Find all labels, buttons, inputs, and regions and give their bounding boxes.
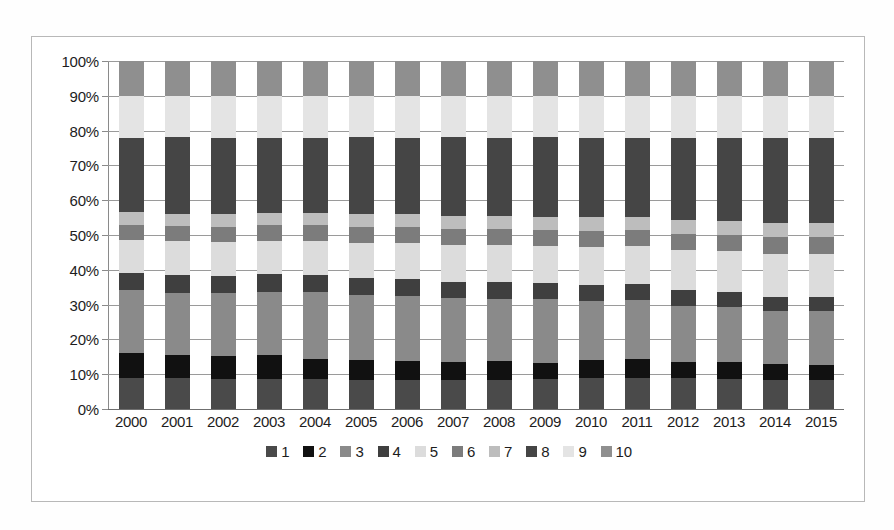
bar-2001[interactable]: [165, 61, 190, 409]
screenshot-root: 0%10%20%30%40%50%60%70%80%90%100% 200020…: [0, 0, 894, 530]
chart-frame: 0%10%20%30%40%50%60%70%80%90%100% 200020…: [31, 36, 865, 502]
bar-2012[interactable]: [671, 61, 696, 409]
bar-segment-series-6: [579, 231, 604, 247]
bar-2002[interactable]: [211, 61, 236, 409]
bar-2009[interactable]: [533, 61, 558, 409]
bar-segment-series-7: [165, 214, 190, 226]
bar-segment-series-9: [763, 96, 788, 138]
bar-segment-series-4: [487, 282, 512, 299]
legend-swatch-icon-10: [601, 446, 612, 457]
bar-segment-series-10: [717, 61, 742, 96]
bar-segment-series-6: [441, 229, 466, 245]
gridlines-and-bars: 0%10%20%30%40%50%60%70%80%90%100%: [108, 61, 844, 409]
legend-item-1[interactable]: 1: [266, 443, 289, 460]
legend-item-9[interactable]: 9: [563, 443, 586, 460]
legend-item-2[interactable]: 2: [303, 443, 326, 460]
legend-item-6[interactable]: 6: [452, 443, 475, 460]
bar-2011[interactable]: [625, 61, 650, 409]
legend-item-8[interactable]: 8: [526, 443, 549, 460]
bar-segment-series-10: [165, 61, 190, 95]
bar-segment-series-2: [395, 361, 420, 380]
bar-segment-series-7: [671, 220, 696, 234]
bar-2008[interactable]: [487, 61, 512, 409]
y-tick-mark: [102, 131, 108, 132]
bar-2004[interactable]: [303, 61, 328, 409]
y-axis-label: 10%: [70, 366, 99, 383]
bar-segment-series-5: [671, 250, 696, 290]
bar-segment-series-9: [671, 96, 696, 138]
bar-segment-series-7: [441, 216, 466, 229]
bar-segment-series-3: [119, 290, 144, 353]
legend-label-7: 7: [504, 443, 512, 460]
bar-segment-series-7: [303, 213, 328, 226]
bar-segment-series-8: [441, 137, 466, 215]
bar-segment-series-10: [349, 61, 374, 96]
legend-item-3[interactable]: 3: [340, 443, 363, 460]
x-axis-label-2006: 2006: [391, 413, 423, 430]
bar-segment-series-5: [349, 243, 374, 278]
bar-segment-series-3: [717, 307, 742, 362]
bar-segment-series-1: [717, 379, 742, 409]
bar-segment-series-7: [349, 214, 374, 227]
bar-segment-series-7: [533, 217, 558, 230]
bar-segment-series-8: [487, 138, 512, 216]
bar-segment-series-8: [579, 138, 604, 218]
bar-segment-series-5: [717, 251, 742, 292]
x-axis-label-2012: 2012: [667, 413, 699, 430]
bar-segment-series-2: [119, 353, 144, 377]
bar-2010[interactable]: [579, 61, 604, 409]
chart-legend: 12345678910: [32, 443, 866, 460]
bar-2006[interactable]: [395, 61, 420, 409]
bar-segment-series-5: [625, 246, 650, 284]
bar-segment-series-2: [763, 364, 788, 380]
bar-segment-series-9: [165, 96, 190, 138]
legend-swatch-icon-8: [526, 446, 537, 457]
bar-segment-series-7: [257, 213, 282, 226]
bar-segment-series-7: [763, 223, 788, 237]
bar-segment-series-6: [303, 225, 328, 241]
bar-segment-series-1: [211, 379, 236, 409]
bar-2000[interactable]: [119, 61, 144, 409]
bar-2013[interactable]: [717, 61, 742, 409]
bar-segment-series-3: [763, 311, 788, 364]
bar-segment-series-1: [671, 378, 696, 409]
y-axis-label: 90%: [70, 87, 99, 104]
bar-2015[interactable]: [809, 61, 834, 409]
bar-segment-series-10: [395, 61, 420, 96]
bar-segment-series-6: [349, 227, 374, 243]
legend-item-5[interactable]: 5: [415, 443, 438, 460]
bar-segment-series-10: [671, 61, 696, 96]
legend-item-7[interactable]: 7: [489, 443, 512, 460]
y-tick-mark: [102, 409, 108, 410]
bar-segment-series-2: [165, 355, 190, 379]
legend-item-10[interactable]: 10: [601, 443, 632, 460]
legend-label-3: 3: [355, 443, 363, 460]
bar-segment-series-2: [717, 362, 742, 379]
x-axis-label-2014: 2014: [759, 413, 791, 430]
y-tick-mark: [102, 200, 108, 201]
x-axis-label-2003: 2003: [253, 413, 285, 430]
x-axis-label-2007: 2007: [437, 413, 469, 430]
bar-segment-series-4: [395, 279, 420, 296]
legend-swatch-icon-6: [452, 446, 463, 457]
bar-segment-series-8: [257, 138, 282, 213]
bar-segment-series-6: [165, 226, 190, 241]
bar-segment-series-10: [579, 61, 604, 96]
bar-segment-series-3: [257, 292, 282, 356]
bar-2014[interactable]: [763, 61, 788, 409]
bar-segment-series-6: [257, 225, 282, 241]
bar-segment-series-6: [211, 227, 236, 243]
bar-segment-series-1: [257, 379, 282, 409]
y-axis-label: 80%: [70, 122, 99, 139]
legend-item-4[interactable]: 4: [378, 443, 401, 460]
bar-segment-series-8: [303, 138, 328, 213]
bar-segment-series-8: [165, 137, 190, 214]
bar-2003[interactable]: [257, 61, 282, 409]
bar-segment-series-4: [441, 282, 466, 298]
bar-segment-series-8: [671, 138, 696, 220]
bar-segment-series-7: [625, 217, 650, 231]
x-axis-label-2015: 2015: [805, 413, 837, 430]
bar-segment-series-1: [763, 380, 788, 409]
bar-2007[interactable]: [441, 61, 466, 409]
bar-2005[interactable]: [349, 61, 374, 409]
